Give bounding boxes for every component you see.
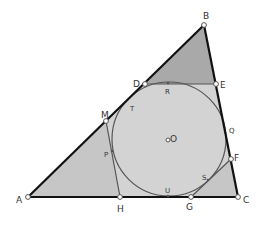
point-d: [143, 82, 148, 87]
label-f: F: [234, 153, 239, 163]
label-a: A: [16, 195, 23, 205]
point-r: [167, 82, 170, 85]
label-u: U: [165, 187, 170, 195]
geometry-diagram: A B C D E M H F G R T P Q S U O: [0, 0, 265, 227]
label-q: Q: [229, 127, 235, 135]
label-m: M: [101, 110, 109, 120]
label-g: G: [186, 202, 193, 212]
label-t: T: [129, 105, 135, 113]
point-c: [236, 195, 241, 200]
point-s: [207, 179, 210, 182]
point-b: [202, 23, 207, 28]
point-a: [26, 195, 31, 200]
point-e: [214, 82, 219, 87]
corner-triangle-a: [28, 121, 120, 197]
label-p: P: [104, 151, 108, 159]
label-o: O: [170, 134, 177, 144]
label-s: S: [202, 174, 207, 182]
point-u: [167, 195, 170, 198]
point-f: [229, 157, 234, 162]
point-h: [118, 195, 123, 200]
point-g: [189, 195, 194, 200]
label-b: B: [203, 11, 209, 21]
label-c: C: [243, 195, 249, 205]
point-p: [111, 150, 114, 153]
label-d: D: [133, 79, 140, 89]
label-h: H: [117, 204, 124, 214]
label-r: R: [165, 88, 170, 96]
label-e: E: [220, 80, 226, 90]
